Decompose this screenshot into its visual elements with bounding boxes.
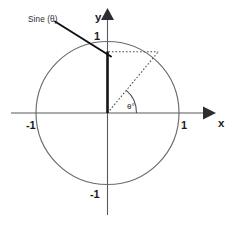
x-axis-label: x [218,118,224,130]
y-tick-positive-one: 1 [94,31,100,42]
sine-callout-label: Sine (θ) [28,16,57,24]
y-axis-label: y [95,12,101,24]
x-axis-arrow-icon [203,107,216,120]
angle-theta-label: θ° [127,103,135,111]
unit-circle-figure: Sine (θ) y x 1 -1 -1 1 θ° [0,0,241,227]
x-tick-positive-one: 1 [181,120,187,131]
y-axis-arrow-icon [101,8,114,20]
y-tick-negative-one: -1 [90,189,99,200]
x-tick-negative-one: -1 [26,120,35,131]
figure-canvas [0,0,241,227]
callout-pointer-line [55,22,111,57]
